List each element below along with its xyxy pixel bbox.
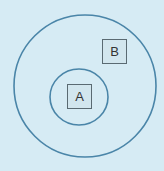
- diagram-canvas: A B: [0, 0, 164, 171]
- box-b-label: B: [110, 44, 119, 59]
- box-a: A: [67, 84, 92, 109]
- box-a-label: A: [75, 89, 84, 104]
- box-b: B: [102, 39, 127, 64]
